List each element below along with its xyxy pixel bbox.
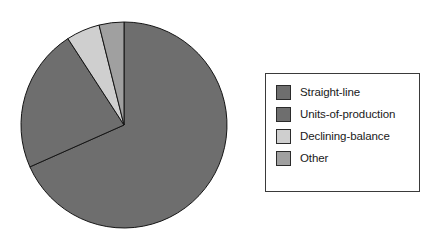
legend-swatch-declining-balance [276, 129, 291, 144]
legend-label-units-of-production: Units-of-production [300, 107, 395, 122]
legend-item-declining-balance[interactable]: Declining-balance [276, 129, 395, 144]
pie-slice-group [21, 22, 227, 228]
legend-item-straight-line[interactable]: Straight-line [276, 85, 395, 100]
chart-canvas: Straight-line Units-of-production Declin… [0, 0, 431, 247]
legend-swatch-straight-line [276, 85, 291, 100]
legend-item-units-of-production[interactable]: Units-of-production [276, 107, 395, 122]
legend-label-other: Other [300, 151, 328, 166]
chart-legend: Straight-line Units-of-production Declin… [265, 73, 420, 192]
legend-swatch-other [276, 151, 291, 166]
legend-label-declining-balance: Declining-balance [300, 129, 390, 144]
legend-item-other[interactable]: Other [276, 151, 395, 166]
legend-item-list: Straight-line Units-of-production Declin… [276, 85, 395, 166]
legend-label-straight-line: Straight-line [300, 85, 360, 100]
legend-swatch-units-of-production [276, 107, 291, 122]
